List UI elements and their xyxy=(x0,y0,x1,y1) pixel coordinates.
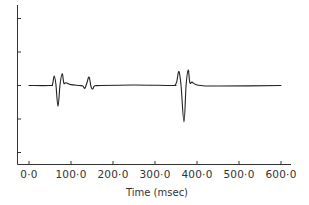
x-tick-label: 0·0 xyxy=(20,168,37,180)
x-axis-title: Time (msec) xyxy=(125,187,188,198)
waveform-trace xyxy=(29,70,281,122)
y-ticks xyxy=(18,19,22,153)
x-tick-label: 100·0 xyxy=(55,168,86,180)
chart: 0·0100·0200·0300·0400·0500·0600·0 Time (… xyxy=(0,0,309,205)
x-tick-labels: 0·0100·0200·0300·0400·0500·0600·0 xyxy=(20,168,296,180)
x-ticks xyxy=(29,161,281,165)
x-tick-label: 400·0 xyxy=(181,168,212,180)
x-tick-label: 500·0 xyxy=(223,168,254,180)
x-tick-label: 600·0 xyxy=(265,168,296,180)
x-tick-label: 200·0 xyxy=(97,168,128,180)
x-tick-label: 300·0 xyxy=(139,168,170,180)
